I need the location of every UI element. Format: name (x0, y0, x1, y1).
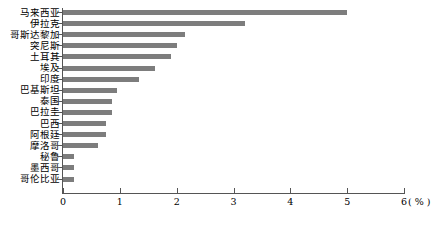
x-axis-tick-label: 3 (224, 196, 244, 207)
y-axis-tick (57, 79, 62, 80)
bar (63, 54, 171, 59)
category-label: 巴拉圭 (0, 106, 60, 117)
x-axis-tick-label: 2 (167, 196, 187, 207)
x-axis-tick-label: 1 (110, 196, 130, 207)
bar-chart: 马来西亚伊拉克哥斯达黎加突尼斯土耳其埃及印度巴基斯坦泰国巴拉圭巴西阿根廷摩洛哥秘… (0, 0, 444, 229)
bar (63, 121, 106, 126)
category-label: 哥斯达黎加 (0, 29, 60, 40)
y-axis-tick (57, 167, 62, 168)
bar (63, 66, 155, 71)
x-axis-tick (120, 188, 121, 193)
x-axis-tick (177, 188, 178, 193)
bar (63, 77, 139, 82)
y-axis-tick (57, 45, 62, 46)
y-axis-tick (57, 23, 62, 24)
y-axis-tick (57, 68, 62, 69)
y-axis-tick (57, 134, 62, 135)
y-axis-line (62, 8, 63, 194)
x-axis-tick (404, 188, 405, 193)
x-axis-tick (290, 188, 291, 193)
x-axis-tick-label: 0 (53, 196, 73, 207)
x-axis-unit-label: ( % ) (408, 196, 430, 207)
y-axis-tick (57, 145, 62, 146)
x-axis-tick (234, 188, 235, 193)
bar (63, 10, 347, 15)
bar (63, 143, 98, 148)
y-axis-tick (57, 156, 62, 157)
category-label: 伊拉克 (0, 18, 60, 29)
bar (63, 21, 245, 26)
category-label: 土耳其 (0, 51, 60, 62)
bar (63, 99, 112, 104)
plot-area (63, 8, 404, 186)
x-axis-tick-label: 5 (337, 196, 357, 207)
x-axis-tick (347, 188, 348, 193)
category-axis-labels: 马来西亚伊拉克哥斯达黎加突尼斯土耳其埃及印度巴基斯坦泰国巴拉圭巴西阿根廷摩洛哥秘… (0, 8, 60, 186)
bar (63, 165, 74, 170)
bar (63, 132, 106, 137)
bar (63, 154, 74, 159)
category-label: 埃及 (0, 62, 60, 73)
x-axis-tick-label: 4 (280, 196, 300, 207)
category-label: 巴基斯坦 (0, 84, 60, 95)
bar (63, 32, 185, 37)
y-axis-tick (57, 56, 62, 57)
bar (63, 177, 74, 182)
bar (63, 110, 112, 115)
category-label: 巴西 (0, 118, 60, 129)
y-axis-tick (57, 12, 62, 13)
x-axis-tick (63, 188, 64, 193)
y-axis-tick (57, 90, 62, 91)
y-axis-tick (57, 112, 62, 113)
category-label: 墨西哥 (0, 162, 60, 173)
category-label: 马来西亚 (0, 7, 60, 18)
x-axis-line (62, 193, 405, 194)
category-label: 秘鲁 (0, 151, 60, 162)
category-label: 突尼斯 (0, 40, 60, 51)
category-label: 阿根廷 (0, 129, 60, 140)
y-axis-tick (57, 34, 62, 35)
category-label: 摩洛哥 (0, 140, 60, 151)
y-axis-tick (57, 101, 62, 102)
bar (63, 88, 117, 93)
y-axis-tick (57, 179, 62, 180)
category-label: 印度 (0, 73, 60, 84)
y-axis-tick (57, 123, 62, 124)
category-label: 泰国 (0, 95, 60, 106)
bar (63, 43, 177, 48)
category-label: 哥伦比亚 (0, 173, 60, 184)
